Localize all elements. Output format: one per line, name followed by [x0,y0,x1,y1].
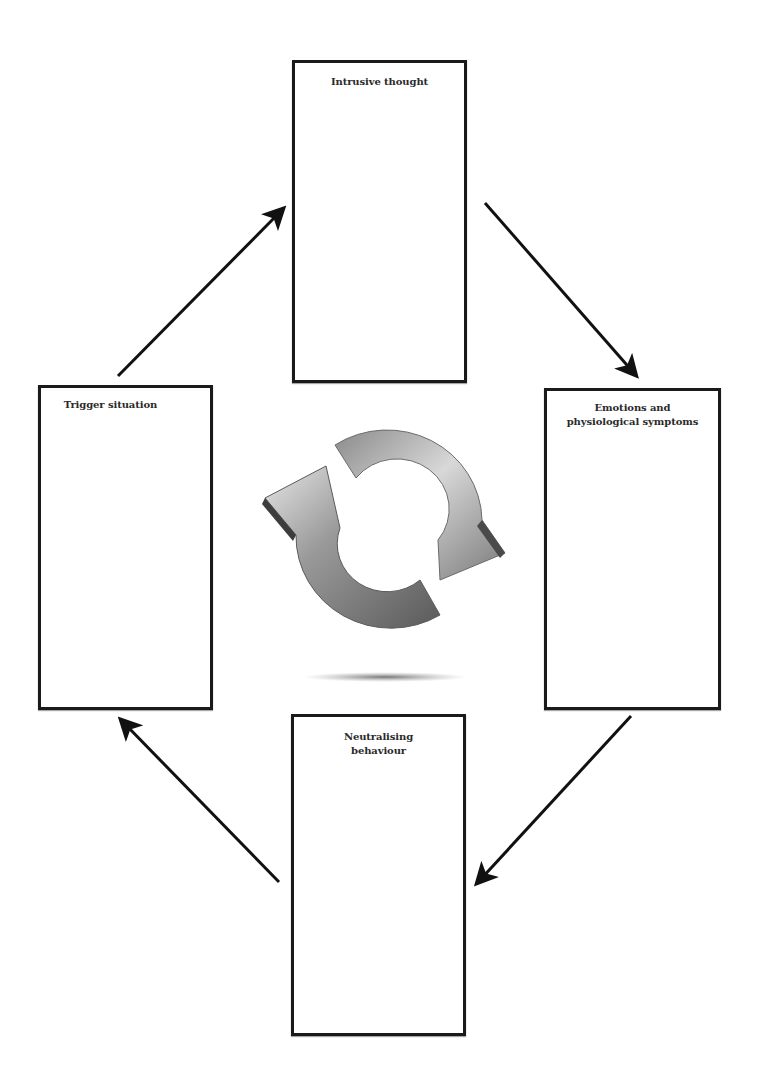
cycle-icon-shadow [303,672,467,682]
cycle-arrow-bottom-left [262,466,440,628]
cycle-arrow-top-right [335,430,505,580]
cycle-arrows-icon [0,0,758,1091]
